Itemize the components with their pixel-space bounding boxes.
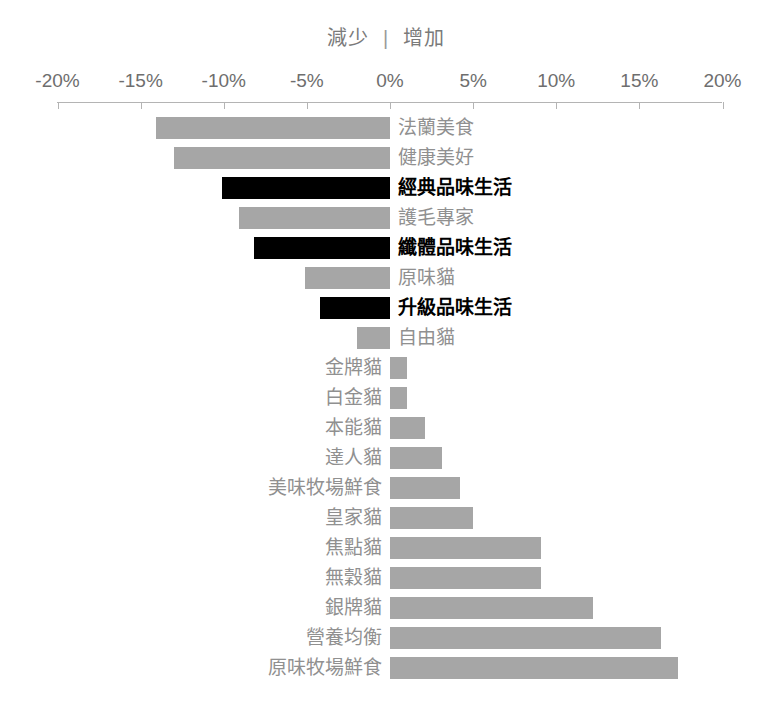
- bar-category-label: 原味貓: [398, 265, 455, 291]
- bar-category-label: 銀牌貓: [325, 595, 382, 621]
- bar-category-label: 升級品味生活: [398, 295, 512, 321]
- bar-category-label: 美味牧場鮮食: [268, 475, 382, 501]
- chart-row: 焦點貓: [0, 533, 772, 563]
- bar-chart: 減少|增加 -20%-15%-10%-5%0%5%10%15%20% 法蘭美食健…: [0, 0, 772, 714]
- x-axis-tick-mark: [639, 102, 640, 109]
- x-axis-tick-mark: [390, 102, 391, 109]
- bar[interactable]: [390, 387, 407, 409]
- bar-category-label: 無穀貓: [325, 565, 382, 591]
- bar[interactable]: [390, 477, 460, 499]
- bar[interactable]: [390, 597, 593, 619]
- bar[interactable]: [320, 297, 390, 319]
- bar-category-label: 纖體品味生活: [398, 235, 512, 261]
- x-axis-tick-label: -15%: [118, 70, 162, 92]
- bar[interactable]: [239, 207, 390, 229]
- bar[interactable]: [390, 657, 678, 679]
- bar-category-label: 營養均衡: [306, 625, 382, 651]
- x-axis-tick-mark: [556, 102, 557, 109]
- bar[interactable]: [156, 117, 390, 139]
- chart-legend: 減少|增加: [0, 22, 772, 51]
- chart-row: 法蘭美食: [0, 113, 772, 143]
- chart-row: 經典品味生活: [0, 173, 772, 203]
- bar-category-label: 原味牧場鮮食: [268, 655, 382, 681]
- bar[interactable]: [390, 417, 425, 439]
- bar[interactable]: [305, 267, 390, 289]
- x-axis-tick-label: 5%: [459, 70, 486, 92]
- bar-category-label: 健康美好: [398, 145, 474, 171]
- chart-row: 護毛專家: [0, 203, 772, 233]
- chart-row: 皇家貓: [0, 503, 772, 533]
- chart-row: 纖體品味生活: [0, 233, 772, 263]
- x-axis-tick-mark: [58, 102, 59, 109]
- bar-category-label: 白金貓: [325, 385, 382, 411]
- bar-category-label: 護毛專家: [398, 205, 474, 231]
- bar-category-label: 焦點貓: [325, 535, 382, 561]
- bar[interactable]: [357, 327, 390, 349]
- bar[interactable]: [390, 627, 661, 649]
- bar[interactable]: [222, 177, 390, 199]
- bar-category-label: 經典品味生活: [398, 175, 512, 201]
- x-axis-tick-label: 20%: [703, 70, 741, 92]
- chart-row: 健康美好: [0, 143, 772, 173]
- bar-category-label: 自由貓: [398, 325, 455, 351]
- bar[interactable]: [390, 537, 541, 559]
- x-axis-tick-label: 0%: [376, 70, 403, 92]
- x-axis-tick-label: -20%: [35, 70, 79, 92]
- bar[interactable]: [174, 147, 390, 169]
- x-axis-tick-label: 10%: [537, 70, 575, 92]
- chart-row: 白金貓: [0, 383, 772, 413]
- bar[interactable]: [390, 357, 407, 379]
- legend-decrease-label: 減少: [327, 22, 369, 51]
- legend-increase-label: 增加: [403, 22, 445, 51]
- plot-area: 法蘭美食健康美好經典品味生活護毛專家纖體品味生活原味貓升級品味生活自由貓金牌貓白…: [0, 113, 772, 713]
- chart-row: 金牌貓: [0, 353, 772, 383]
- x-axis-tick-label: -10%: [202, 70, 246, 92]
- x-axis-tick-mark: [473, 102, 474, 109]
- chart-row: 達人貓: [0, 443, 772, 473]
- bar-category-label: 達人貓: [325, 445, 382, 471]
- chart-row: 原味貓: [0, 263, 772, 293]
- bar[interactable]: [390, 567, 541, 589]
- legend-separator: |: [383, 27, 389, 50]
- bar-category-label: 皇家貓: [325, 505, 382, 531]
- x-axis-tick-mark: [141, 102, 142, 109]
- chart-row: 銀牌貓: [0, 593, 772, 623]
- chart-row: 無穀貓: [0, 563, 772, 593]
- bar-category-label: 本能貓: [325, 415, 382, 441]
- x-axis-tick-mark: [307, 102, 308, 109]
- x-axis-tick-label: -5%: [290, 70, 324, 92]
- x-axis-tick-label: 15%: [620, 70, 658, 92]
- x-axis-tick-labels: -20%-15%-10%-5%0%5%10%15%20%: [0, 70, 772, 94]
- bar-category-label: 法蘭美食: [398, 115, 474, 141]
- chart-row: 美味牧場鮮食: [0, 473, 772, 503]
- bar-category-label: 金牌貓: [325, 355, 382, 381]
- chart-row: 升級品味生活: [0, 293, 772, 323]
- bar[interactable]: [390, 507, 473, 529]
- chart-row: 原味牧場鮮食: [0, 653, 772, 683]
- x-axis-tick-mark: [224, 102, 225, 109]
- chart-row: 本能貓: [0, 413, 772, 443]
- chart-row: 自由貓: [0, 323, 772, 353]
- bar[interactable]: [390, 447, 442, 469]
- bar[interactable]: [254, 237, 390, 259]
- chart-row: 營養均衡: [0, 623, 772, 653]
- x-axis-tick-mark: [723, 102, 724, 109]
